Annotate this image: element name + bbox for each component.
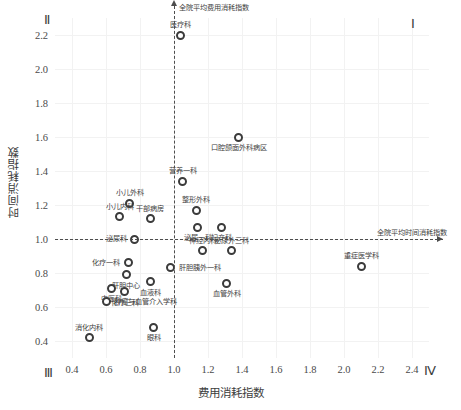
y-tick-label: 1.6 — [35, 132, 48, 143]
x-tick-label: 2.0 — [337, 364, 350, 375]
x-tick-label: 1.4 — [235, 364, 248, 375]
gridline-horizontal — [55, 171, 429, 172]
quadrant-label-one: Ⅰ — [411, 16, 415, 32]
x-tick-label: 0.4 — [65, 364, 78, 375]
data-point-label: 血管外科 — [213, 290, 241, 297]
y-tick-label: 0.8 — [35, 268, 48, 279]
data-point-marker[interactable] — [357, 262, 366, 271]
data-point-label: 重症医学科 — [344, 252, 379, 259]
average-time-reference-label: 全院平均时间消耗指数 — [377, 227, 447, 237]
x-tick-label: 0.8 — [133, 364, 146, 375]
data-point-label: 肝胆胰外一科 — [179, 264, 221, 271]
data-point-label: 小儿内科 — [106, 203, 134, 210]
data-point-label: 营养一科 — [169, 167, 197, 174]
data-point-marker[interactable] — [115, 212, 124, 221]
average-cost-reference-label: 全院平均费用消耗指数 — [179, 2, 249, 12]
data-point-marker[interactable] — [227, 246, 236, 255]
y-axis-label: 时间消耗指数 — [6, 146, 22, 218]
y-tick-label: 2.2 — [35, 30, 48, 41]
gridline-horizontal — [55, 69, 429, 70]
gridline-horizontal — [55, 103, 429, 104]
x-tick-label: 0.6 — [99, 364, 112, 375]
data-point-label: 消化内科 — [75, 323, 103, 330]
x-tick-label: 1.0 — [167, 364, 180, 375]
data-point-label: 口腔颌面外科病区 — [211, 144, 267, 151]
data-point-label: 肿瘤与血管介入学科 — [114, 298, 177, 305]
data-point-marker[interactable] — [178, 177, 187, 186]
x-axis-label: 费用消耗指数 — [0, 384, 461, 400]
data-point-marker[interactable] — [146, 277, 155, 286]
y-tick-label: 1.2 — [35, 200, 48, 211]
quadrant-label-four: Ⅳ — [424, 363, 436, 379]
x-tick-label: 1.6 — [269, 364, 282, 375]
data-point-label: 泌尿外三科 — [214, 237, 249, 244]
data-point-marker[interactable] — [193, 223, 202, 232]
gridline-horizontal — [55, 273, 429, 274]
data-point-marker[interactable] — [198, 246, 207, 255]
data-point-label: 小儿外科 — [116, 189, 144, 196]
data-point-marker[interactable] — [146, 214, 155, 223]
y-tick-label: 1.0 — [35, 234, 48, 245]
data-point-label: 神经内科 — [189, 237, 217, 244]
data-point-label: 血液科 — [140, 289, 161, 296]
plot-area: 医疗科口腔颌面外科病区营养一科小儿外科整形外科小儿内科干部病房泌尿一科妇产科泌尿… — [55, 18, 429, 358]
data-point-label: 整形外科 — [182, 196, 210, 203]
quadrant-label-three: Ⅲ — [44, 365, 53, 381]
y-tick-label: 1.8 — [35, 98, 48, 109]
data-point-marker[interactable] — [85, 333, 94, 342]
gridline-horizontal — [55, 341, 429, 342]
data-point-marker[interactable] — [124, 258, 133, 267]
gridline-horizontal — [55, 307, 429, 308]
average-time-reference-line — [55, 239, 443, 240]
data-point-marker[interactable] — [149, 323, 158, 332]
quadrant-label-two: Ⅱ — [44, 12, 50, 28]
data-point-marker[interactable] — [222, 279, 231, 288]
x-tick-label: 1.8 — [303, 364, 316, 375]
average-cost-reference-line — [174, 6, 175, 358]
data-point-label: 干部病房 — [136, 204, 164, 211]
data-point-marker[interactable] — [176, 31, 185, 40]
data-point-label: 化疗一科 — [92, 259, 120, 266]
data-point-marker[interactable] — [234, 133, 243, 142]
data-point-marker[interactable] — [192, 206, 201, 215]
data-point-marker[interactable] — [122, 270, 131, 279]
data-point-marker[interactable] — [217, 223, 226, 232]
x-tick-label: 2.4 — [405, 364, 418, 375]
gridline-horizontal — [55, 35, 429, 36]
vertical-axis-arrow-icon — [171, 0, 177, 6]
data-point-marker[interactable] — [120, 287, 129, 296]
y-tick-label: 0.4 — [35, 336, 48, 347]
x-tick-label: 1.2 — [201, 364, 214, 375]
y-tick-label: 1.4 — [35, 166, 48, 177]
data-point-label: 眼科 — [147, 334, 161, 341]
scatter-chart: 医疗科口腔颌面外科病区营养一科小儿外科整形外科小儿内科干部病房泌尿一科妇产科泌尿… — [0, 0, 461, 410]
y-tick-label: 0.6 — [35, 302, 48, 313]
data-point-marker[interactable] — [102, 297, 111, 306]
y-tick-label: 2.0 — [35, 64, 48, 75]
x-tick-label: 2.2 — [371, 364, 384, 375]
data-point-marker[interactable] — [107, 284, 116, 293]
